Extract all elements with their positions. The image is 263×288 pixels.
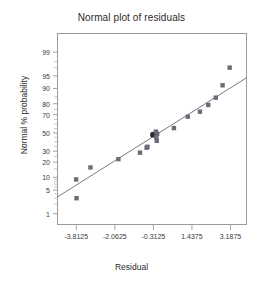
- y-tick-label: 99: [20, 49, 50, 56]
- y-tick-label: 50: [20, 129, 50, 136]
- data-point[interactable]: [155, 139, 159, 143]
- y-tick-label: 90: [20, 85, 50, 92]
- data-point[interactable]: [206, 103, 210, 107]
- data-point[interactable]: [116, 157, 120, 161]
- x-tick-label: 3.1875: [220, 233, 241, 240]
- y-tick-label: 95: [20, 72, 50, 79]
- x-axis-label: Residual: [0, 262, 263, 272]
- data-point[interactable]: [198, 109, 202, 113]
- data-point[interactable]: [155, 132, 159, 136]
- x-tick-label: -0.3125: [142, 233, 166, 240]
- data-point[interactable]: [145, 145, 149, 149]
- y-tick-label: 5: [20, 187, 50, 194]
- data-point[interactable]: [227, 65, 231, 69]
- x-tick-label: -3.8125: [64, 233, 88, 240]
- data-point[interactable]: [74, 196, 78, 200]
- y-tick-label: 30: [20, 148, 50, 155]
- data-points-group: [74, 65, 232, 200]
- y-tick-label: 10: [20, 174, 50, 181]
- plot-canvas: [57, 33, 247, 225]
- normal-probability-plot-figure: Normal plot of residuals Normal % probab…: [0, 0, 263, 288]
- chart-title: Normal plot of residuals: [0, 12, 263, 23]
- y-tick-label: 1: [20, 210, 50, 217]
- data-point[interactable]: [74, 177, 78, 181]
- data-point[interactable]: [220, 83, 224, 87]
- data-point[interactable]: [88, 165, 92, 169]
- y-tick-label: 70: [20, 111, 50, 118]
- y-axis-major-ticks: [53, 52, 57, 214]
- x-tick-label: 1.4375: [181, 233, 202, 240]
- data-point[interactable]: [172, 126, 176, 130]
- data-point[interactable]: [186, 114, 190, 118]
- y-tick-label: 80: [20, 100, 50, 107]
- y-tick-label: 20: [20, 159, 50, 166]
- x-tick-label: -2.0625: [103, 233, 127, 240]
- data-point[interactable]: [214, 95, 218, 99]
- data-point[interactable]: [138, 150, 142, 154]
- x-axis-ticks: [76, 225, 230, 230]
